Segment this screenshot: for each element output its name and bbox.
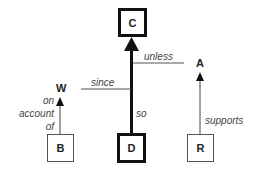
on-account-of-line-3: of	[14, 120, 54, 133]
rebuttal-support-node: R	[187, 134, 214, 162]
on-account-of-line-1: on	[14, 94, 54, 107]
backing-node-label: B	[57, 142, 65, 154]
claim-node: C	[118, 8, 147, 37]
rebuttal-arrowhead-icon	[196, 72, 204, 81]
warrant-node-label: W	[56, 82, 66, 94]
on-account-of-line-2: account	[14, 107, 54, 120]
claim-node-label: C	[129, 17, 137, 29]
backing-node: B	[47, 134, 74, 162]
rebuttal-node-label: A	[196, 57, 204, 69]
on-account-of-label: on account of	[14, 94, 54, 133]
claim-arrowhead-icon	[124, 37, 139, 51]
warrant-arrowhead-icon	[56, 97, 64, 106]
data-node: D	[117, 133, 146, 163]
data-node-label: D	[128, 142, 136, 154]
supports-label: supports	[205, 114, 243, 127]
unless-label: unless	[144, 50, 173, 63]
so-label: so	[136, 107, 147, 120]
rebuttal-support-node-label: R	[197, 142, 205, 154]
since-label: since	[91, 76, 114, 89]
